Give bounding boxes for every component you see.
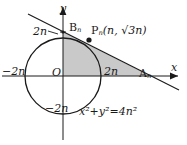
y-axis-label: y [60,3,66,14]
geometry-figure: y x O −2n 2n 2n −2n Bn An Pn(n, √3n) x²+… [0,0,187,145]
point-A-letter: A [139,67,147,80]
point-A-label: An [139,68,151,80]
origin-label: O [52,67,61,78]
x-tick-label-negative: −2n [2,66,25,77]
circle-equation-label: x²+y²=4n² [79,106,137,117]
y-tick-label-negative: −2n [45,103,68,114]
point-B-subscript: n [77,26,81,34]
point-B-label: Bn [69,22,81,34]
y-tick-label-positive: 2n [33,26,47,37]
tick-dash-2n [48,31,58,34]
figure-canvas [0,0,187,145]
point-A-subscript: n [147,72,151,80]
point-P-marker [86,37,91,42]
point-B-marker [61,30,64,33]
point-P-label: Pn(n, √3n) [91,25,147,37]
x-axis-label: x [171,62,177,73]
point-B-letter: B [69,21,77,34]
x-tick-label-positive: 2n [104,66,118,77]
point-P-coordinates: (n, √3n) [103,24,147,37]
